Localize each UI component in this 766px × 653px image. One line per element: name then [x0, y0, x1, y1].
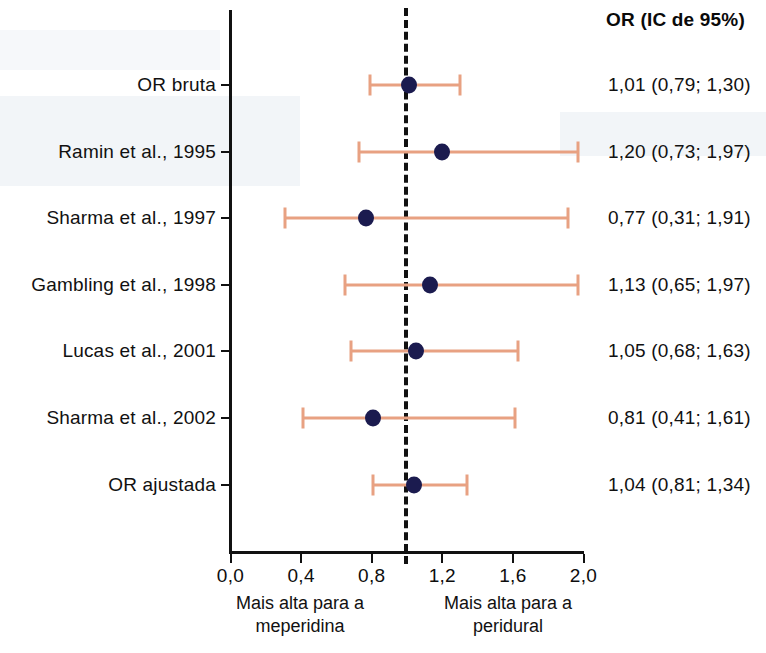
confidence-interval-line	[345, 283, 578, 286]
x-axis-tick-label: 0,4	[287, 565, 314, 587]
study-label: OR bruta	[137, 74, 216, 96]
study-label: Gambling et al., 1998	[31, 274, 216, 296]
x-axis-tick	[441, 554, 443, 563]
y-axis-tick	[221, 151, 230, 153]
ci-cap-upper	[517, 341, 520, 362]
odds-ratio-value-text: 1,05 (0,68; 1,63)	[608, 340, 751, 362]
odds-ratio-value-text: 1,20 (0,73; 1,97)	[608, 141, 751, 163]
y-axis-tick	[221, 84, 230, 86]
odds-ratio-point	[422, 276, 438, 293]
odds-ratio-point	[401, 77, 417, 94]
ci-cap-lower	[368, 75, 371, 96]
y-axis-spine	[229, 10, 232, 554]
ci-cap-upper	[566, 208, 569, 229]
odds-ratio-point	[365, 410, 381, 427]
odds-ratio-point	[408, 343, 424, 360]
ci-cap-upper	[458, 75, 461, 96]
confidence-interval-line	[351, 350, 519, 353]
odds-ratio-point	[434, 143, 450, 160]
x-axis-tick-label: 1,2	[429, 565, 456, 587]
study-label: Sharma et al., 2002	[46, 407, 216, 429]
ci-cap-lower	[284, 208, 287, 229]
ci-cap-lower	[349, 341, 352, 362]
value-column-header: OR (IC de 95%)	[606, 9, 745, 31]
y-axis-tick	[221, 284, 230, 286]
y-axis-tick	[221, 350, 230, 352]
y-axis-tick	[221, 417, 230, 419]
confidence-interval-line	[285, 217, 567, 220]
x-axis-tick-label: 1,6	[499, 565, 526, 587]
odds-ratio-value-text: 0,77 (0,31; 1,91)	[608, 207, 751, 229]
ci-cap-lower	[344, 274, 347, 295]
confidence-interval-line	[359, 150, 578, 153]
x-axis-tick	[371, 554, 373, 563]
x-axis-tick	[230, 554, 232, 563]
y-axis-tick	[221, 484, 230, 486]
study-label: Lucas et al., 2001	[62, 340, 216, 362]
x-axis-tick	[300, 554, 302, 563]
odds-ratio-point	[406, 476, 422, 493]
odds-ratio-value-text: 1,13 (0,65; 1,97)	[608, 274, 751, 296]
odds-ratio-value-text: 1,01 (0,79; 1,30)	[608, 74, 751, 96]
ci-cap-lower	[358, 141, 361, 162]
ci-cap-upper	[577, 274, 580, 295]
ci-cap-upper	[513, 408, 516, 429]
y-axis-tick	[221, 217, 230, 219]
x-axis-tick	[583, 554, 585, 563]
confidence-interval-line	[303, 417, 515, 420]
odds-ratio-point	[358, 210, 374, 227]
ci-cap-upper	[466, 474, 469, 495]
study-label: Ramin et al., 1995	[58, 141, 216, 163]
odds-ratio-value-text: 1,04 (0,81; 1,34)	[608, 474, 751, 496]
ci-cap-upper	[577, 141, 580, 162]
scan-tint	[0, 30, 220, 70]
study-label: Sharma et al., 1997	[46, 207, 216, 229]
x-axis-tick	[512, 554, 514, 563]
footnote-left: Mais alta para a meperidina	[190, 592, 410, 638]
footnote-right: Mais alta para a peridural	[398, 592, 618, 638]
forest-plot: OR (IC de 95%) 0,00,40,81,21,62,0 OR bru…	[0, 0, 766, 653]
x-axis-tick-label: 0,0	[217, 565, 244, 587]
odds-ratio-value-text: 0,81 (0,41; 1,61)	[608, 407, 751, 429]
study-label: OR ajustada	[108, 474, 216, 496]
x-axis-tick-label: 0,8	[358, 565, 385, 587]
ci-cap-lower	[301, 408, 304, 429]
ci-cap-lower	[372, 474, 375, 495]
x-axis-tick-label: 2,0	[570, 565, 597, 587]
